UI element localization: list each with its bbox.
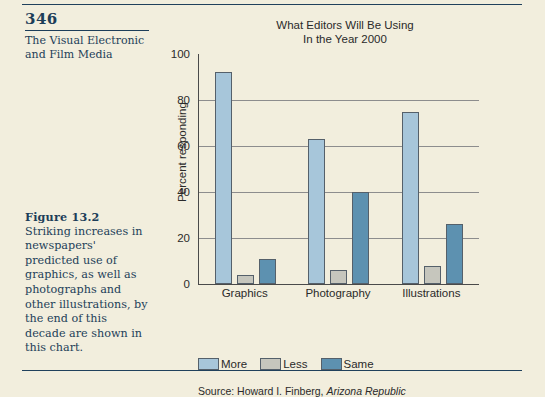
chart-panel: What Editors Will Be Using In the Year 2… <box>160 8 530 364</box>
chart-source: Source: Howard I. Finberg, Arizona Repub… <box>198 385 498 397</box>
page-number: 346 <box>25 12 155 27</box>
chart-title-line-1: What Editors Will Be Using <box>160 18 530 32</box>
folio-divider <box>25 30 149 31</box>
legend-item-less[interactable]: Less <box>260 358 307 370</box>
bar-group-illustrations <box>389 54 475 284</box>
y-tick-20: 20 <box>177 232 190 244</box>
folio-block: 346 The Visual Electronic and Film Media <box>25 12 155 62</box>
plot-wrapper: Percent responding 020406080100 Graphics… <box>160 54 530 294</box>
legend-label-same: Same <box>344 358 374 370</box>
x-axis-tick-labels: GraphicsPhotographyIllustrations <box>198 287 478 299</box>
page-rule-top <box>22 4 522 5</box>
legend-swatch-more <box>198 358 219 370</box>
bar-illustrations-more[interactable] <box>402 112 419 285</box>
legend-label-more: More <box>221 358 247 370</box>
chart-legend: MoreLessSame <box>198 358 478 370</box>
y-tick-80: 80 <box>177 94 190 106</box>
bar-illustrations-less[interactable] <box>424 266 441 284</box>
bar-illustrations-same[interactable] <box>446 224 463 284</box>
page-rule-bottom <box>22 370 522 371</box>
x-label-photography: Photography <box>295 287 381 299</box>
bar-photography-same[interactable] <box>352 192 369 284</box>
figure-caption-label: Figure 13.2 <box>25 210 150 225</box>
bar-group-photography <box>296 54 382 284</box>
y-tick-40: 40 <box>177 186 190 198</box>
y-tick-60: 60 <box>177 140 190 152</box>
chart-title: What Editors Will Be Using In the Year 2… <box>160 18 530 46</box>
legend-label-less: Less <box>283 358 307 370</box>
x-label-illustrations: Illustrations <box>388 287 474 299</box>
legend-swatch-less <box>260 358 281 370</box>
y-tick-100: 100 <box>171 48 190 60</box>
y-axis-tick-labels: 020406080100 <box>160 54 194 284</box>
y-tick-0: 0 <box>184 278 190 290</box>
bar-groups <box>199 54 479 284</box>
bar-graphics-more[interactable] <box>215 72 232 284</box>
bar-group-graphics <box>203 54 289 284</box>
legend-item-more[interactable]: More <box>198 358 247 370</box>
bar-photography-more[interactable] <box>308 139 325 284</box>
bar-photography-less[interactable] <box>330 270 347 284</box>
bar-graphics-same[interactable] <box>259 259 276 284</box>
x-label-graphics: Graphics <box>202 287 288 299</box>
bar-graphics-less[interactable] <box>237 275 254 284</box>
figure-caption: Figure 13.2 Striking increases in newspa… <box>25 210 150 356</box>
running-head-line-1: The Visual Electronic <box>25 34 144 47</box>
running-head: The Visual Electronic and Film Media <box>25 34 155 62</box>
running-head-line-2: and Film Media <box>25 48 113 61</box>
legend-swatch-same <box>321 358 342 370</box>
chart-source-prefix: Source: Howard I. Finberg, <box>198 385 326 397</box>
chart-title-line-2: In the Year 2000 <box>160 32 530 46</box>
figure-caption-text: Striking increases in newspapers' predic… <box>25 225 148 355</box>
legend-item-same[interactable]: Same <box>321 358 374 370</box>
plot-area <box>198 54 479 285</box>
chart-source-publication: Arizona Republic <box>326 385 405 397</box>
